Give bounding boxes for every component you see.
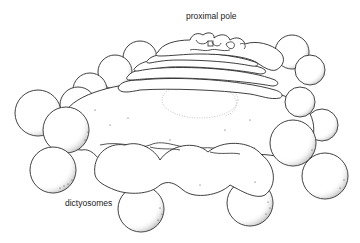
lower-lobed-rim bbox=[95, 143, 274, 196]
diagram-drawing bbox=[0, 0, 360, 243]
dictyosome-diagram: proximal pole dictyosomes bbox=[0, 0, 360, 243]
dictyosomes-label: dictyosomes bbox=[65, 198, 112, 208]
proximal-pole-label: proximal pole bbox=[186, 11, 237, 21]
